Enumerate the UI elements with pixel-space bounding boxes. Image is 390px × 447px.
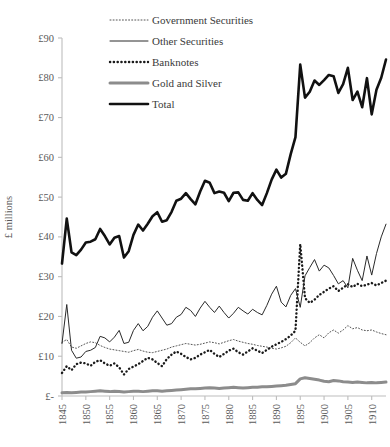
x-axis-tick-label: 1855 xyxy=(104,404,115,425)
x-axis-tick-label: 1885 xyxy=(247,404,258,425)
line-chart: £-£10£20£30£40£50£60£70£80£9018451850185… xyxy=(0,0,390,447)
chart-container: £-£10£20£30£40£50£60£70£80£9018451850185… xyxy=(0,0,390,447)
x-axis-tick-label: 1850 xyxy=(81,404,92,425)
x-axis-tick-label: 1870 xyxy=(176,404,187,425)
y-axis-tick-label: £80 xyxy=(38,72,54,83)
legend-label-government-securities: Government Securities xyxy=(152,14,253,26)
x-axis-tick-label: 1890 xyxy=(271,404,282,425)
y-axis-title: £ millions xyxy=(3,196,14,238)
x-axis-tick-label: 1905 xyxy=(343,404,354,425)
x-axis-tick-label: 1910 xyxy=(367,404,378,425)
x-axis-tick-label: 1845 xyxy=(57,404,68,425)
y-axis-tick-label: £60 xyxy=(38,152,54,163)
y-axis-tick-label: £20 xyxy=(38,311,54,322)
x-axis-tick-label: 1880 xyxy=(224,404,235,425)
legend-label-gold-and-silver: Gold and Silver xyxy=(152,77,222,89)
y-axis-tick-label: £40 xyxy=(38,231,54,242)
legend-label-other-securities: Other Securities xyxy=(152,35,223,47)
x-axis-tick-label: 1875 xyxy=(200,404,211,425)
legend-label-banknotes: Banknotes xyxy=(152,56,198,68)
y-axis-tick-label: £- xyxy=(45,391,54,402)
y-axis-tick-label: £70 xyxy=(38,112,54,123)
y-axis-tick-label: £90 xyxy=(38,33,54,44)
x-axis-tick-label: 1860 xyxy=(128,404,139,425)
y-axis-tick-label: £30 xyxy=(38,271,54,282)
x-axis-tick-label: 1900 xyxy=(319,404,330,425)
y-axis-tick-label: £50 xyxy=(38,192,54,203)
x-axis-tick-label: 1865 xyxy=(152,404,163,425)
legend-label-total: Total xyxy=(152,98,174,110)
y-axis-tick-label: £10 xyxy=(38,351,54,362)
x-axis-tick-label: 1895 xyxy=(295,404,306,425)
